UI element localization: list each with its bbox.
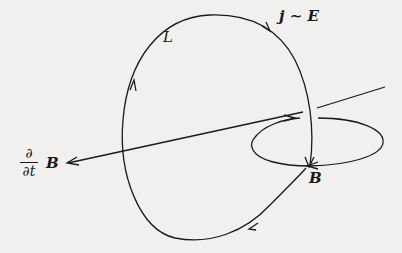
time-derivative: ∂ ∂t — [20, 146, 38, 179]
current-arrow-top-icon — [262, 22, 270, 31]
arrowheads — [67, 22, 318, 230]
current-loop — [122, 15, 312, 240]
loop-label: L — [163, 28, 173, 46]
derivative-numerator: ∂ — [25, 146, 32, 161]
diagram-canvas — [0, 0, 402, 253]
derivative-denominator: ∂t — [23, 164, 36, 179]
dbdt-vector-label: B — [46, 154, 59, 172]
current-label: j ∼ E — [279, 7, 319, 25]
dbdt-arrow-line-left — [68, 112, 303, 163]
current-arrow-bottom-icon — [249, 223, 258, 230]
field-arrow-back-icon — [284, 115, 295, 121]
field-loop-back-right — [310, 118, 383, 166]
field-loop-front — [252, 140, 311, 166]
field-label: B — [309, 169, 322, 187]
dbdt-arrow-line-right — [317, 87, 385, 108]
